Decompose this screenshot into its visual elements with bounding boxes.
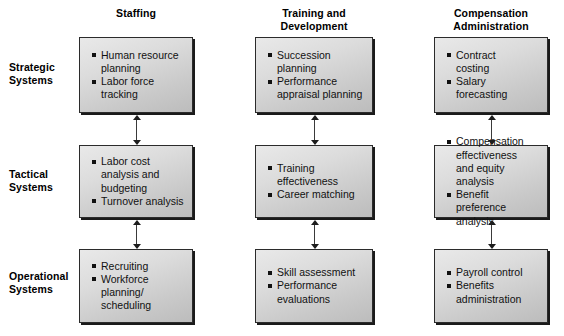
node-tactical-training[interactable]: Training effectiveness Career matching [255, 145, 373, 218]
bullet-square-icon [268, 80, 272, 84]
arrow-head-down-icon [133, 140, 141, 145]
node-item: Salary forecasting [447, 75, 540, 101]
node-item: Succession planning [268, 49, 365, 75]
node-item: Labor cost analysis and budgeting [92, 155, 185, 195]
column-header-compensation-administration: Compensation Administration [434, 7, 548, 32]
connector-arrow-training-tactical-operational [310, 220, 319, 249]
node-operational-training[interactable]: Skill assessment Performance evaluations [255, 249, 373, 323]
bullet-square-icon [447, 271, 451, 275]
column-header-training-line2: Development [255, 20, 373, 33]
bullet-square-icon [92, 53, 96, 57]
column-header-training-line1: Training and [255, 7, 373, 20]
bullet-square-icon [447, 80, 451, 84]
node-strategic-staffing[interactable]: Human resource planning Labor force trac… [79, 37, 193, 113]
node-item: Career matching [268, 188, 365, 201]
row-label-strategic-line2: Systems [9, 74, 77, 87]
arrow-head-up-icon [311, 220, 319, 225]
arrow-head-down-icon [311, 140, 319, 145]
bullet-square-icon [92, 160, 96, 164]
arrow-shaft [136, 224, 137, 245]
bullet-square-icon [92, 199, 96, 203]
bullet-square-icon [268, 166, 272, 170]
arrow-head-down-icon [488, 140, 496, 145]
node-tactical-compensation[interactable]: Compensation effectiveness and equity an… [434, 145, 548, 218]
arrow-shaft [136, 119, 137, 141]
connector-arrow-compensation-strategic-tactical [487, 115, 496, 145]
column-header-compensation-line1: Compensation [434, 7, 548, 20]
arrow-shaft [314, 224, 315, 245]
node-item: Labor force tracking [92, 75, 185, 101]
node-item: Benefits administration [447, 279, 540, 305]
arrow-head-down-icon [311, 244, 319, 249]
bullet-square-icon [268, 284, 272, 288]
column-header-compensation-line2: Administration [434, 20, 548, 33]
node-item: Skill assessment [268, 266, 365, 279]
node-strategic-training[interactable]: Succession planning Performance appraisa… [255, 37, 373, 113]
connector-arrow-training-strategic-tactical [310, 115, 319, 145]
connector-arrow-staffing-strategic-tactical [132, 115, 141, 145]
arrow-head-up-icon [488, 220, 496, 225]
row-label-strategic-line1: Strategic [9, 61, 77, 74]
node-item: Human resource planning [92, 49, 185, 75]
connector-arrow-compensation-tactical-operational [487, 220, 496, 249]
node-tactical-staffing[interactable]: Labor cost analysis and budgeting Turnov… [79, 145, 193, 218]
bullet-square-icon [447, 193, 451, 197]
arrow-shaft [491, 224, 492, 245]
node-item: Training effectiveness [268, 162, 365, 188]
node-item: Recruiting [92, 260, 185, 273]
row-label-operational-line1: Operational [9, 270, 83, 283]
arrow-head-down-icon [133, 244, 141, 249]
arrow-shaft [314, 119, 315, 141]
row-label-strategic-systems: Strategic Systems [9, 61, 77, 87]
column-header-staffing: Staffing [79, 7, 193, 20]
row-label-tactical-systems: Tactical Systems [9, 168, 77, 194]
row-label-operational-line2: Systems [9, 283, 83, 296]
node-item: Turnover analysis [92, 195, 185, 208]
row-label-tactical-line1: Tactical [9, 168, 77, 181]
column-header-training-and-development: Training and Development [255, 7, 373, 32]
node-item: Workforce planning/ scheduling [92, 273, 185, 313]
bullet-square-icon [92, 277, 96, 281]
node-operational-staffing[interactable]: Recruiting Workforce planning/ schedulin… [79, 249, 193, 323]
node-operational-compensation[interactable]: Payroll control Benefits administration [434, 249, 548, 323]
arrow-head-up-icon [488, 115, 496, 120]
row-label-operational-systems: Operational Systems [9, 270, 83, 296]
bullet-square-icon [268, 193, 272, 197]
bullet-square-icon [268, 53, 272, 57]
node-item: Contract costing [447, 49, 540, 75]
node-item: Performance appraisal planning [268, 75, 365, 101]
bullet-square-icon [92, 264, 96, 268]
bullet-square-icon [447, 284, 451, 288]
connector-arrow-staffing-tactical-operational [132, 220, 141, 249]
column-header-staffing-line1: Staffing [79, 7, 193, 20]
node-strategic-compensation[interactable]: Contract costing Salary forecasting [434, 37, 548, 113]
row-label-tactical-line2: Systems [9, 181, 77, 194]
node-item: Payroll control [447, 266, 540, 279]
arrow-head-down-icon [488, 244, 496, 249]
bullet-square-icon [268, 271, 272, 275]
bullet-square-icon [92, 80, 96, 84]
arrow-head-up-icon [133, 115, 141, 120]
arrow-head-up-icon [133, 220, 141, 225]
bullet-square-icon [447, 140, 451, 144]
arrow-shaft [491, 119, 492, 141]
bullet-square-icon [447, 53, 451, 57]
arrow-head-up-icon [311, 115, 319, 120]
node-item: Performance evaluations [268, 279, 365, 305]
